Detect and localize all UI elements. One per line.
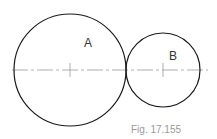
circle-a-label: A: [84, 36, 92, 50]
circle-b-label: B: [169, 49, 177, 63]
diagram-canvas: A B Fig. 17.155: [0, 0, 217, 139]
figure-caption: Fig. 17.155: [131, 124, 181, 135]
